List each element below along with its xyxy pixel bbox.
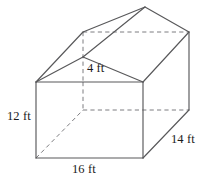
edge-receding-top-left	[36, 32, 83, 82]
edge-back-roof-right-slope	[145, 7, 189, 32]
geometry-figure: 12 ft 4 ft 14 ft 16 ft	[0, 0, 209, 183]
edge-front-roof-left-slope	[36, 57, 83, 82]
solid-edges-group	[36, 7, 189, 158]
dimension-label-width: 16 ft	[72, 163, 96, 176]
edge-back-roof-left-slope	[83, 7, 145, 32]
dimension-label-height: 12 ft	[7, 110, 31, 123]
edge-receding-top-right	[143, 32, 189, 82]
prism-drawing	[0, 0, 209, 183]
hidden-edges-group	[36, 32, 189, 158]
dimension-label-apex-height: 4 ft	[87, 62, 104, 75]
dimension-label-depth: 14 ft	[171, 133, 195, 146]
hidden-edge-bottom-left-diagonal	[36, 110, 83, 158]
